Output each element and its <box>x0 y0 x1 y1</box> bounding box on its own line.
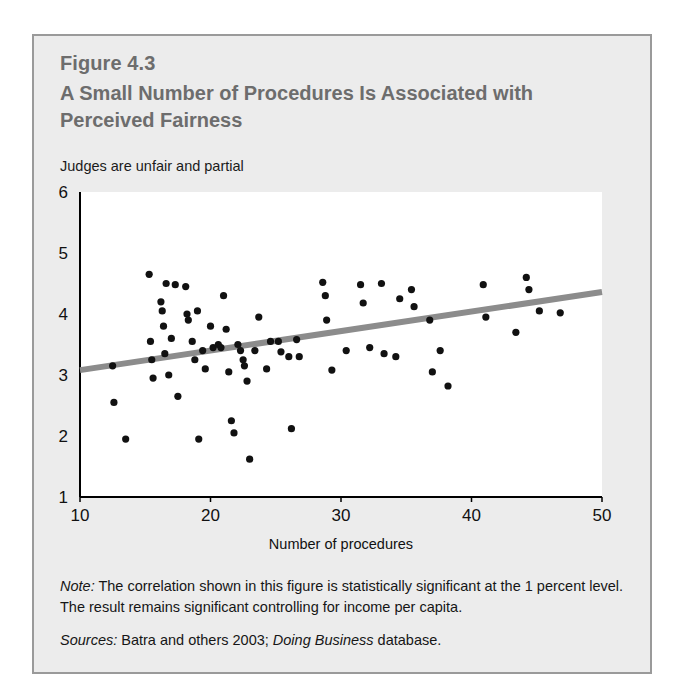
figure-panel: Figure 4.3 A Small Number of Procedures … <box>32 34 652 674</box>
scatter-point <box>207 323 214 330</box>
scatter-point <box>263 365 270 372</box>
plot-background <box>80 192 602 497</box>
scatter-point <box>444 382 451 389</box>
scatter-point <box>437 347 444 354</box>
figure-number: Figure 4.3 <box>60 52 155 75</box>
scatter-point <box>217 344 224 351</box>
figure-sources: Sources: Batra and others 2003; Doing Bu… <box>60 630 626 651</box>
scatter-point <box>174 393 181 400</box>
scatter-point <box>110 399 117 406</box>
scatter-point <box>157 298 164 305</box>
y-axis-description: Judges are unfair and partial <box>60 158 244 174</box>
scatter-point <box>396 295 403 302</box>
scatter-point <box>319 279 326 286</box>
scatter-point <box>328 367 335 374</box>
figure-note: Note: The correlation shown in this figu… <box>60 576 626 618</box>
scatter-point <box>182 283 189 290</box>
scatter-point <box>225 368 232 375</box>
x-axis-title: Number of procedures <box>269 536 413 552</box>
scatter-point <box>220 292 227 299</box>
scatter-point <box>323 317 330 324</box>
scatter-point <box>482 313 489 320</box>
scatter-point <box>429 368 436 375</box>
y-tick-label: 6 <box>59 184 68 202</box>
scatter-point <box>109 362 116 369</box>
scatter-point <box>296 353 303 360</box>
scatter-point <box>277 348 284 355</box>
y-tick-label: 1 <box>59 488 68 507</box>
scatter-point <box>557 309 564 316</box>
scatter-point <box>202 365 209 372</box>
x-tick-label: 50 <box>593 506 612 525</box>
scatter-point <box>223 326 230 333</box>
note-text: The correlation shown in this figure is … <box>60 578 623 615</box>
scatter-point <box>426 317 433 324</box>
scatter-point <box>243 378 250 385</box>
scatter-point <box>322 292 329 299</box>
plot-svg: 123456 1020304050 Number of procedures <box>34 184 654 584</box>
scatter-point <box>122 435 129 442</box>
x-tick-label: 30 <box>332 506 351 525</box>
scatter-point <box>480 281 487 288</box>
scatter-point <box>148 356 155 363</box>
y-tick-label: 5 <box>59 244 68 263</box>
scatter-point <box>378 280 385 287</box>
scatter-point <box>183 310 190 317</box>
y-tick-label: 3 <box>59 366 68 385</box>
sources-text-part2: database. <box>374 632 442 648</box>
y-tick-label-group: 123456 <box>59 184 68 507</box>
scatter-point <box>275 338 282 345</box>
sources-publication-name: Doing Business <box>273 632 374 648</box>
scatter-point <box>147 338 154 345</box>
sources-label: Sources: <box>60 632 117 648</box>
scatter-point <box>159 307 166 314</box>
scatter-point <box>255 313 262 320</box>
x-tick-label: 10 <box>71 506 90 525</box>
x-tick-label: 40 <box>462 506 481 525</box>
scatter-point <box>536 307 543 314</box>
scatter-point <box>172 281 179 288</box>
scatter-point <box>161 350 168 357</box>
scatter-point <box>525 286 532 293</box>
scatter-point <box>195 435 202 442</box>
scatter-point <box>189 338 196 345</box>
scatter-point <box>149 374 156 381</box>
y-tick-label: 2 <box>59 427 68 446</box>
scatter-point <box>523 274 530 281</box>
scatter-point <box>251 347 258 354</box>
scatter-point <box>228 417 235 424</box>
scatter-point <box>288 425 295 432</box>
x-tick-label-group: 1020304050 <box>71 506 612 525</box>
sources-text-part1: Batra and others 2003; <box>117 632 273 648</box>
scatter-point <box>240 356 247 363</box>
scatter-point <box>267 338 274 345</box>
scatter-point <box>512 329 519 336</box>
scatter-point <box>343 347 350 354</box>
scatter-point <box>380 350 387 357</box>
scatter-point <box>293 336 300 343</box>
scatter-point <box>360 299 367 306</box>
scatter-point <box>237 347 244 354</box>
scatter-point <box>241 362 248 369</box>
scatter-point <box>163 280 170 287</box>
scatter-plot: 123456 1020304050 Number of procedures <box>34 184 654 584</box>
figure-title: A Small Number of Procedures Is Associat… <box>60 80 620 134</box>
scatter-point <box>408 286 415 293</box>
scatter-point <box>199 347 206 354</box>
scatter-point <box>168 335 175 342</box>
scatter-point <box>357 281 364 288</box>
scatter-point <box>246 456 253 463</box>
scatter-point <box>194 307 201 314</box>
scatter-point <box>185 317 192 324</box>
scatter-point <box>160 323 167 330</box>
scatter-point <box>392 353 399 360</box>
scatter-point <box>366 344 373 351</box>
scatter-point <box>410 303 417 310</box>
note-label: Note: <box>60 578 95 594</box>
scatter-point <box>285 353 292 360</box>
x-tick-label: 20 <box>201 506 220 525</box>
y-tick-label: 4 <box>59 305 68 324</box>
scatter-point <box>230 429 237 436</box>
scatter-point <box>165 371 172 378</box>
scatter-point <box>191 356 198 363</box>
